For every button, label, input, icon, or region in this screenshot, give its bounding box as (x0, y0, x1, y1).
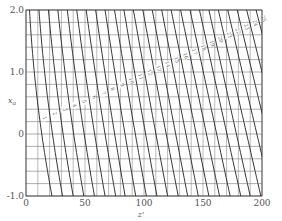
x-axis-label: z' (137, 210, 144, 219)
curve-labels: 1234567891011121314151617181920212223242… (41, 15, 268, 122)
y-axis-label: xa (8, 96, 17, 106)
curve-15 (162, 10, 199, 196)
y-tick-label: 0 (18, 129, 24, 139)
chart: 1234567891011121314151617181920212223242… (0, 0, 282, 221)
x-tick-label: 100 (135, 198, 152, 208)
curve-11 (124, 10, 157, 196)
x-tick-label: 0 (23, 198, 29, 208)
y-tick-label: 1.0 (10, 67, 25, 77)
curve-24 (247, 10, 282, 196)
y-tick-label: 2.0 (10, 5, 25, 15)
curve-13 (143, 10, 178, 196)
curve-14 (152, 10, 187, 196)
y-axis-label-sub: a (12, 99, 16, 106)
curve-17 (181, 10, 220, 196)
curve-21 (218, 10, 260, 196)
y-tick-label: -1.0 (7, 191, 25, 201)
x-tick-label: 150 (194, 198, 211, 208)
curve-7 (86, 10, 116, 196)
x-tick-label: 200 (253, 198, 270, 208)
curve-12 (133, 10, 167, 196)
x-tick-label: 50 (79, 198, 91, 208)
